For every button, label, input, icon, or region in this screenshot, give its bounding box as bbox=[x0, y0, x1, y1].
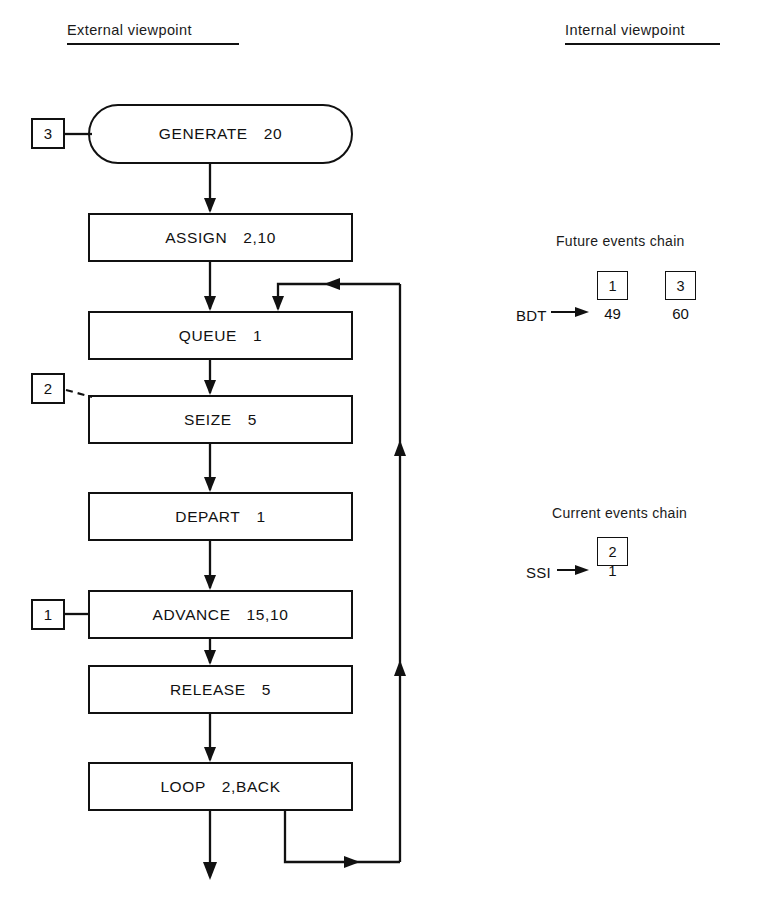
arrowhead-right-rail-upper bbox=[394, 440, 406, 456]
tag-transaction-3[interactable]: 3 bbox=[31, 118, 65, 149]
flow-return-to-queue bbox=[278, 284, 400, 309]
future-events-chain-value-3: 60 bbox=[660, 305, 701, 322]
block-seize-operand: 5 bbox=[248, 411, 257, 429]
block-generate-op: GENERATE bbox=[159, 125, 248, 143]
arrowhead-generate-to-assign bbox=[204, 198, 216, 213]
block-advance-operand: 15,10 bbox=[247, 606, 289, 624]
diagram-page: External viewpoint Internal viewpoint GE… bbox=[0, 0, 765, 911]
future-events-chain-title-label: Future events chain bbox=[556, 233, 685, 249]
block-depart-operand: 1 bbox=[256, 508, 265, 526]
block-loop-operand: 2,BACK bbox=[222, 778, 281, 796]
block-depart[interactable]: DEPART 1 bbox=[88, 492, 353, 541]
current-events-chain-pointer-label: SSI bbox=[526, 564, 551, 581]
block-loop-op: LOOP bbox=[160, 778, 205, 796]
arrowhead-right-rail-lower bbox=[394, 660, 406, 676]
block-release-op: RELEASE bbox=[170, 681, 246, 699]
current-events-chain-value-2: 1 bbox=[592, 562, 633, 579]
block-depart-op: DEPART bbox=[175, 508, 240, 526]
pointer-bdt-arrowhead bbox=[575, 307, 589, 317]
block-seize[interactable]: SEIZE 5 bbox=[88, 395, 353, 444]
block-queue-op: QUEUE bbox=[179, 327, 237, 345]
block-release[interactable]: RELEASE 5 bbox=[88, 665, 353, 714]
tag-transaction-2[interactable]: 2 bbox=[31, 373, 65, 404]
arrowhead-loop-exit bbox=[203, 862, 217, 880]
future-events-chain-xact-3-label: 3 bbox=[676, 278, 684, 294]
block-advance-op: ADVANCE bbox=[153, 606, 231, 624]
pointer-ssi-arrowhead bbox=[575, 565, 589, 575]
flow-loop-back-branch bbox=[285, 811, 400, 862]
current-events-chain-value-2-label: 1 bbox=[608, 562, 616, 579]
block-seize-op: SEIZE bbox=[184, 411, 232, 429]
heading-external-viewpoint: External viewpoint bbox=[67, 22, 239, 45]
arrowhead-release-to-loop bbox=[204, 747, 216, 762]
block-queue-operand: 1 bbox=[253, 327, 262, 345]
tag-transaction-2-label: 2 bbox=[44, 380, 52, 397]
heading-internal-viewpoint: Internal viewpoint bbox=[565, 22, 720, 45]
block-release-operand: 5 bbox=[262, 681, 271, 699]
heading-internal-viewpoint-label: Internal viewpoint bbox=[565, 22, 685, 38]
future-events-chain-xact-3[interactable]: 3 bbox=[665, 271, 696, 300]
block-assign[interactable]: ASSIGN 2,10 bbox=[88, 213, 353, 262]
arrowhead-loop-back-branch bbox=[344, 856, 360, 868]
block-assign-op: ASSIGN bbox=[165, 229, 227, 247]
arrowhead-seize-to-depart bbox=[204, 477, 216, 492]
block-generate[interactable]: GENERATE 20 bbox=[88, 104, 353, 164]
arrowhead-return-into-queue bbox=[272, 296, 284, 311]
future-events-chain-value-1-label: 49 bbox=[604, 305, 621, 322]
current-events-chain-title: Current events chain bbox=[552, 505, 687, 521]
tag-transaction-3-label: 3 bbox=[44, 125, 52, 142]
arrowhead-assign-to-queue bbox=[204, 296, 216, 311]
arrowhead-return-horizontal bbox=[324, 278, 340, 290]
block-assign-operand: 2,10 bbox=[243, 229, 276, 247]
block-loop[interactable]: LOOP 2,BACK bbox=[88, 762, 353, 811]
future-events-chain-xact-1-label: 1 bbox=[608, 278, 616, 294]
future-events-chain-pointer-label: BDT bbox=[516, 307, 547, 324]
future-events-chain-pointer-text: BDT bbox=[516, 307, 547, 324]
future-events-chain-value-3-label: 60 bbox=[672, 305, 689, 322]
arrowhead-queue-to-seize bbox=[204, 380, 216, 395]
block-generate-operand: 20 bbox=[264, 125, 282, 143]
future-events-chain-xact-1[interactable]: 1 bbox=[597, 271, 628, 300]
future-events-chain-value-1: 49 bbox=[592, 305, 633, 322]
block-advance[interactable]: ADVANCE 15,10 bbox=[88, 590, 353, 639]
future-events-chain-title: Future events chain bbox=[556, 233, 685, 249]
arrowhead-depart-to-advance bbox=[204, 575, 216, 590]
block-queue[interactable]: QUEUE 1 bbox=[88, 311, 353, 360]
current-events-chain-pointer-text: SSI bbox=[526, 564, 551, 581]
current-events-chain-xact-2-label: 2 bbox=[608, 544, 616, 560]
heading-external-viewpoint-label: External viewpoint bbox=[67, 22, 192, 38]
current-events-chain-title-label: Current events chain bbox=[552, 505, 687, 521]
tag-transaction-1-label: 1 bbox=[44, 606, 52, 623]
tag-transaction-1[interactable]: 1 bbox=[31, 599, 65, 630]
arrowhead-advance-to-release bbox=[204, 650, 216, 665]
